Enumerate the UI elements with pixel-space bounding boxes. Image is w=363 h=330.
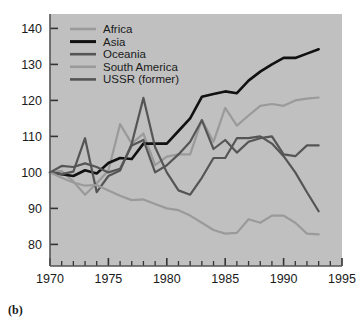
x-axis-tick-label: 1975 — [94, 272, 122, 286]
y-axis-tick-label: 100 — [21, 166, 42, 180]
legend-label: South America — [103, 61, 178, 73]
legend-label: Oceania — [103, 48, 146, 60]
y-axis-tick-label: 90 — [28, 202, 42, 216]
y-axis-tick-labels: 8090100110120130140 — [21, 22, 42, 252]
x-axis-tick-label: 1970 — [36, 272, 64, 286]
y-axis-tick-label: 110 — [22, 130, 42, 144]
y-axis-tick-label: 120 — [21, 94, 42, 108]
y-axis-tick-label: 130 — [21, 58, 42, 72]
x-axis-tick-label: 1995 — [328, 272, 356, 286]
legend-label: USSR (former) — [103, 73, 179, 85]
figure-container: 8090100110120130140 19701975198019851990… — [0, 0, 363, 330]
y-axis-tick-label: 80 — [28, 238, 42, 252]
legend-label: Africa — [103, 23, 133, 35]
x-axis-tick-label: 1985 — [211, 272, 239, 286]
x-axis-tick-labels: 197019751980198519901995 — [36, 272, 356, 286]
legend-label: Asia — [103, 36, 126, 48]
x-axis-tick-label: 1980 — [153, 272, 181, 286]
figure-caption: (b) — [8, 303, 23, 318]
x-axis-tick-label: 1990 — [270, 272, 298, 286]
line-chart: 8090100110120130140 19701975198019851990… — [0, 0, 363, 330]
y-axis-tick-label: 140 — [21, 22, 42, 36]
